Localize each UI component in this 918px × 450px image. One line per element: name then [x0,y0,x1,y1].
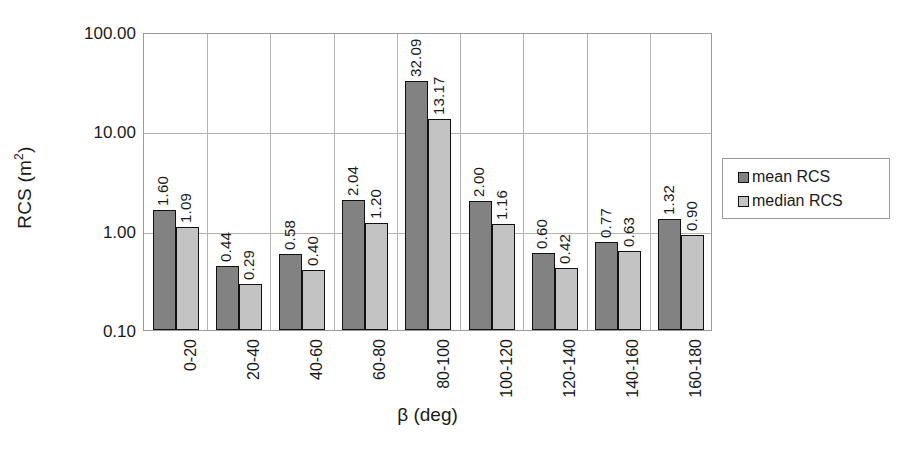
legend-label-mean-rcs: mean RCS [752,168,830,186]
bar-60-80-median[interactable] [365,223,388,330]
bar-140-160-mean[interactable] [595,242,618,330]
bar-group-80-100: 32.0913.17 [397,34,460,330]
bar-label-40-60-mean: 0.58 [282,220,297,250]
legend-item-median-rcs: median RCS [738,192,843,210]
y-axis-tick-labels: 100.0010.001.000.10 [38,0,136,450]
bar-label-100-120-mean: 2.00 [471,167,486,197]
legend-swatch-mean-rcs [738,172,749,183]
bar-100-120-mean[interactable] [469,201,492,330]
bar-label-40-60-median: 0.40 [305,236,320,266]
bar-0-20-mean[interactable] [153,210,176,330]
x-axis-tick-60-80: 60-80 [372,339,388,380]
y-axis-tick-0: 100.00 [38,25,136,42]
bar-group-160-180: 1.320.90 [650,34,713,330]
bar-groups: 1.601.090.440.290.580.402.041.2032.0913.… [144,34,711,330]
bar-140-160-median[interactable] [618,251,641,330]
bar-160-180-mean[interactable] [658,219,681,330]
bar-label-120-140-mean: 0.60 [534,219,549,249]
bar-label-0-20-mean: 1.60 [155,176,170,206]
plot-area: 1.601.090.440.290.580.402.041.2032.0913.… [143,33,712,331]
bar-120-140-median[interactable] [555,268,578,330]
bar-group-120-140: 0.600.42 [523,34,586,330]
bar-20-40-median[interactable] [239,284,262,330]
bar-100-120-median[interactable] [492,224,515,330]
bar-label-60-80-median: 1.20 [368,189,383,219]
x-axis-tick-80-100: 80-100 [436,339,452,389]
bar-group-140-160: 0.770.63 [587,34,650,330]
bar-label-80-100-median: 13.17 [431,77,446,116]
bar-40-60-median[interactable] [302,270,325,330]
legend-item-mean-rcs: mean RCS [738,168,830,186]
bar-80-100-median[interactable] [428,119,451,330]
bar-group-60-80: 2.041.20 [334,34,397,330]
x-axis-tick-0-20: 0-20 [183,339,199,371]
bar-label-20-40-median: 0.29 [241,250,256,280]
rcs-bar-chart-figure: RCS (m2) 100.0010.001.000.10 1.601.090.4… [0,0,918,450]
y-axis-title-exponent: 2 [12,153,26,160]
bar-label-100-120-median: 1.16 [494,190,509,220]
bar-group-40-60: 0.580.40 [270,34,333,330]
bar-20-40-mean[interactable] [216,266,239,330]
x-axis-title: β (deg) [143,404,712,426]
y-axis-title: RCS (m2) [12,118,35,258]
bar-0-20-median[interactable] [176,227,199,330]
x-axis-tick-20-40: 20-40 [246,339,262,380]
x-axis-tick-100-120: 100-120 [499,339,515,398]
bar-label-140-160-median: 0.63 [621,217,636,247]
bar-label-0-20-median: 1.09 [178,193,193,223]
bar-label-160-180-mean: 1.32 [661,185,676,215]
bar-120-140-mean[interactable] [532,253,555,330]
y-axis-tick-1: 10.00 [38,124,136,141]
y-axis-tick-2: 1.00 [38,223,136,240]
y-axis-tick-3: 0.10 [38,323,136,340]
bar-label-120-140-median: 0.42 [557,234,572,264]
bar-label-60-80-mean: 2.04 [345,166,360,196]
bar-group-20-40: 0.440.29 [207,34,270,330]
bar-label-140-160-mean: 0.77 [598,208,613,238]
y-axis-title-close: ) [14,147,35,154]
x-axis-tick-160-180: 160-180 [688,339,704,398]
x-axis-tick-140-160: 140-160 [625,339,641,398]
bar-label-80-100-mean: 32.09 [408,39,423,78]
y-axis-title-text: RCS (m [14,160,35,229]
legend-swatch-median-rcs [738,196,749,207]
bar-60-80-mean[interactable] [342,200,365,330]
bar-40-60-mean[interactable] [279,254,302,330]
bar-label-20-40-mean: 0.44 [218,232,233,262]
bar-label-160-180-median: 0.90 [684,201,699,231]
x-axis-tick-40-60: 40-60 [309,339,325,380]
bar-group-100-120: 2.001.16 [460,34,523,330]
legend-label-median-rcs: median RCS [752,192,843,210]
legend: mean RCS median RCS [722,158,890,219]
bar-160-180-median[interactable] [681,235,704,330]
bar-80-100-mean[interactable] [405,81,428,330]
bar-group-0-20: 1.601.09 [144,34,207,330]
x-axis-tick-120-140: 120-140 [562,339,578,398]
